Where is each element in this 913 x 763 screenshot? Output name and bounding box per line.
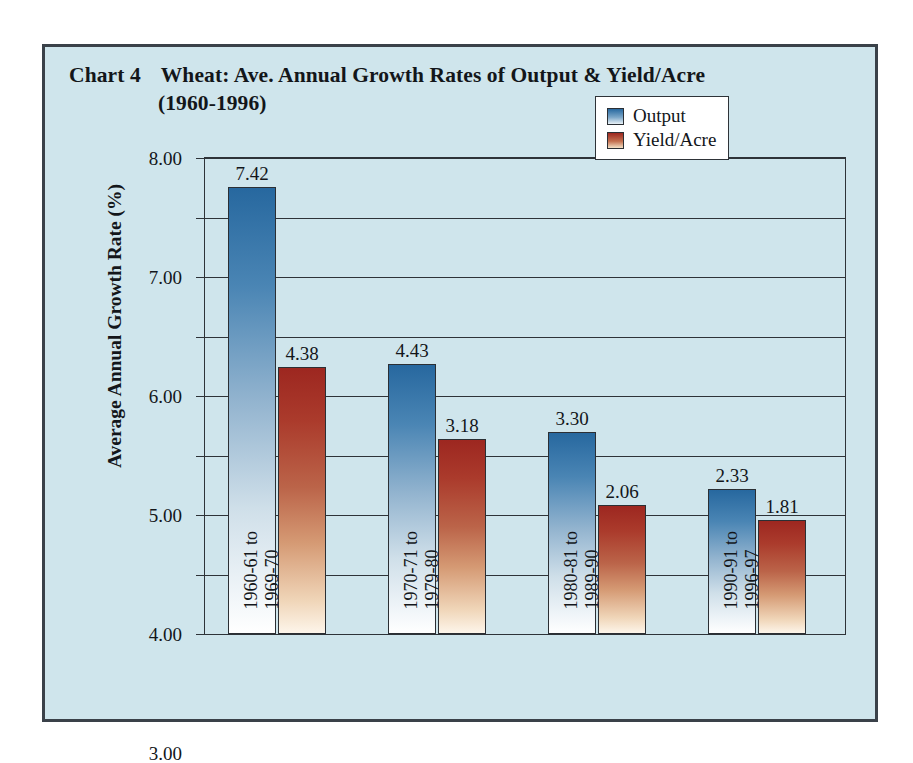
x-axis-category-label: 1980-81 to1989-90	[561, 531, 602, 610]
chart-legend: Output Yield/Acre	[595, 96, 729, 160]
gridline	[205, 218, 845, 219]
bar-yield-acre: 4.38	[278, 367, 326, 634]
y-axis-tick-label: 3.00	[149, 743, 182, 763]
chart-title-line-1: Chart 4 Wheat: Ave. Annual Growth Rates …	[69, 61, 829, 89]
y-axis-tick: 7.00	[196, 218, 205, 219]
x-axis-category-line: 1989-90	[582, 531, 602, 610]
y-axis-tick-label: 8.00	[149, 148, 182, 170]
y-axis-tick-label: 5.00	[149, 505, 182, 527]
x-axis-category-line: 1969-70	[262, 531, 282, 610]
gridline	[205, 277, 845, 278]
bar-value-label: 1.81	[765, 496, 798, 518]
x-axis-category-line: 1980-81 to	[561, 531, 581, 610]
y-axis-tick: 6.00	[196, 277, 205, 278]
x-axis-category-label: 1990-91 to1996-97	[721, 531, 762, 610]
legend-item-output[interactable]: Output	[607, 104, 719, 128]
legend-swatch-yield-icon	[607, 132, 624, 149]
x-axis-category-line: 1960-61 to	[241, 531, 261, 610]
bar-value-label: 2.33	[715, 465, 748, 487]
bar-value-label: 3.30	[555, 408, 588, 430]
y-axis-tick: 4.00	[196, 396, 205, 397]
x-axis-category-line: 1996-97	[742, 531, 762, 610]
bar-yield-acre: 3.18	[438, 439, 486, 634]
chart-title-main: Wheat: Ave. Annual Growth Rates of Outpu…	[161, 61, 705, 89]
y-axis-tick-label: 4.00	[149, 624, 182, 646]
legend-swatch-output-icon	[607, 108, 624, 125]
x-axis-category-label: 1960-61 to1969-70	[241, 531, 282, 610]
y-axis-tick: 3.00	[196, 456, 205, 457]
x-axis-category-line: 1979-80	[422, 531, 442, 610]
bar-value-label: 3.18	[445, 415, 478, 437]
legend-item-yield-acre[interactable]: Yield/Acre	[607, 128, 719, 152]
y-axis-tick: 2.00	[196, 515, 205, 516]
legend-label-yield-acre: Yield/Acre	[633, 129, 716, 151]
y-axis-tick: 8.00	[196, 158, 205, 159]
x-axis-category-label: 1970-71 to1979-80	[401, 531, 442, 610]
x-axis-category-line: 1990-91 to	[721, 531, 741, 610]
page-canvas: Chart 4 Wheat: Ave. Annual Growth Rates …	[0, 0, 913, 763]
bar-yield-acre: 1.81	[758, 520, 806, 634]
gridline	[205, 158, 845, 159]
bar-value-label: 4.43	[395, 340, 428, 362]
gridline	[205, 337, 845, 338]
chart-number-label: Chart 4	[69, 61, 141, 89]
bar-value-label: 4.38	[285, 343, 318, 365]
bar-value-label: 2.06	[605, 481, 638, 503]
bar-yield-acre: 2.06	[598, 505, 646, 634]
x-axis-category-line: 1970-71 to	[401, 531, 421, 610]
legend-label-output: Output	[633, 105, 686, 127]
gridline	[205, 634, 845, 635]
y-axis-tick-label: 7.00	[149, 267, 182, 289]
y-axis-tick: 1.00	[196, 575, 205, 576]
y-axis-tick-label: 6.00	[149, 386, 182, 408]
chart-figure-frame: Chart 4 Wheat: Ave. Annual Growth Rates …	[42, 44, 878, 722]
y-axis-tick: 5.00	[196, 337, 205, 338]
y-axis-tick: 0.00	[196, 634, 205, 635]
y-axis-title: Average Annual Growth Rate (%)	[104, 126, 126, 526]
bar-value-label: 7.42	[235, 163, 268, 185]
